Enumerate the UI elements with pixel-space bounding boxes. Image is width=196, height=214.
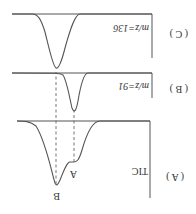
- chromatogram-svg: ( A ) TIC A B ( B ) m/z=91 ( C ) m/z=136: [0, 0, 196, 214]
- panel-b-trace-label: m/z=91: [118, 81, 149, 92]
- panel-a: ( A ) TIC A B: [17, 121, 184, 202]
- panel-c: ( C ) m/z=136: [12, 14, 188, 68]
- panel-a-trace-label: TIC: [132, 166, 148, 177]
- panel-b: ( B ) m/z=91: [12, 73, 188, 111]
- panel-a-axis: [17, 121, 150, 198]
- mz136-trace: [12, 14, 152, 68]
- chromatogram-figure: ( A ) TIC A B ( B ) m/z=91 ( C ) m/z=136: [0, 0, 196, 214]
- panel-c-trace-label: m/z=136: [113, 23, 149, 34]
- panel-c-label: ( C ): [170, 28, 188, 40]
- tic-trace: [17, 121, 150, 185]
- peak-a-label: A: [69, 169, 77, 180]
- panel-a-label: ( A ): [166, 171, 184, 183]
- panel-c-axis: [12, 14, 152, 58]
- peak-b-label: B: [53, 191, 60, 202]
- panel-b-label: ( B ): [170, 83, 188, 95]
